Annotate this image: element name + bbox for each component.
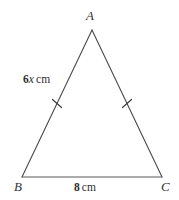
vertex-label-b: B [14,180,22,193]
tick-mark-icon-ab [53,100,62,108]
side-length-label-bc: 8cm [74,182,96,194]
side-ab-variable: x [29,73,34,85]
vertex-label-c: C [161,180,170,193]
side-length-label-ab: 6xcm [23,74,50,86]
side-bc-unit: cm [82,181,96,193]
tick-mark-icon-ac [123,100,132,108]
side-bc-value: 8 [74,181,80,193]
triangle-drawing [0,0,179,200]
vertex-label-a: A [86,9,94,22]
geometry-figure: A B C 6xcm 8cm [0,0,179,200]
side-ab-unit: cm [36,73,50,85]
